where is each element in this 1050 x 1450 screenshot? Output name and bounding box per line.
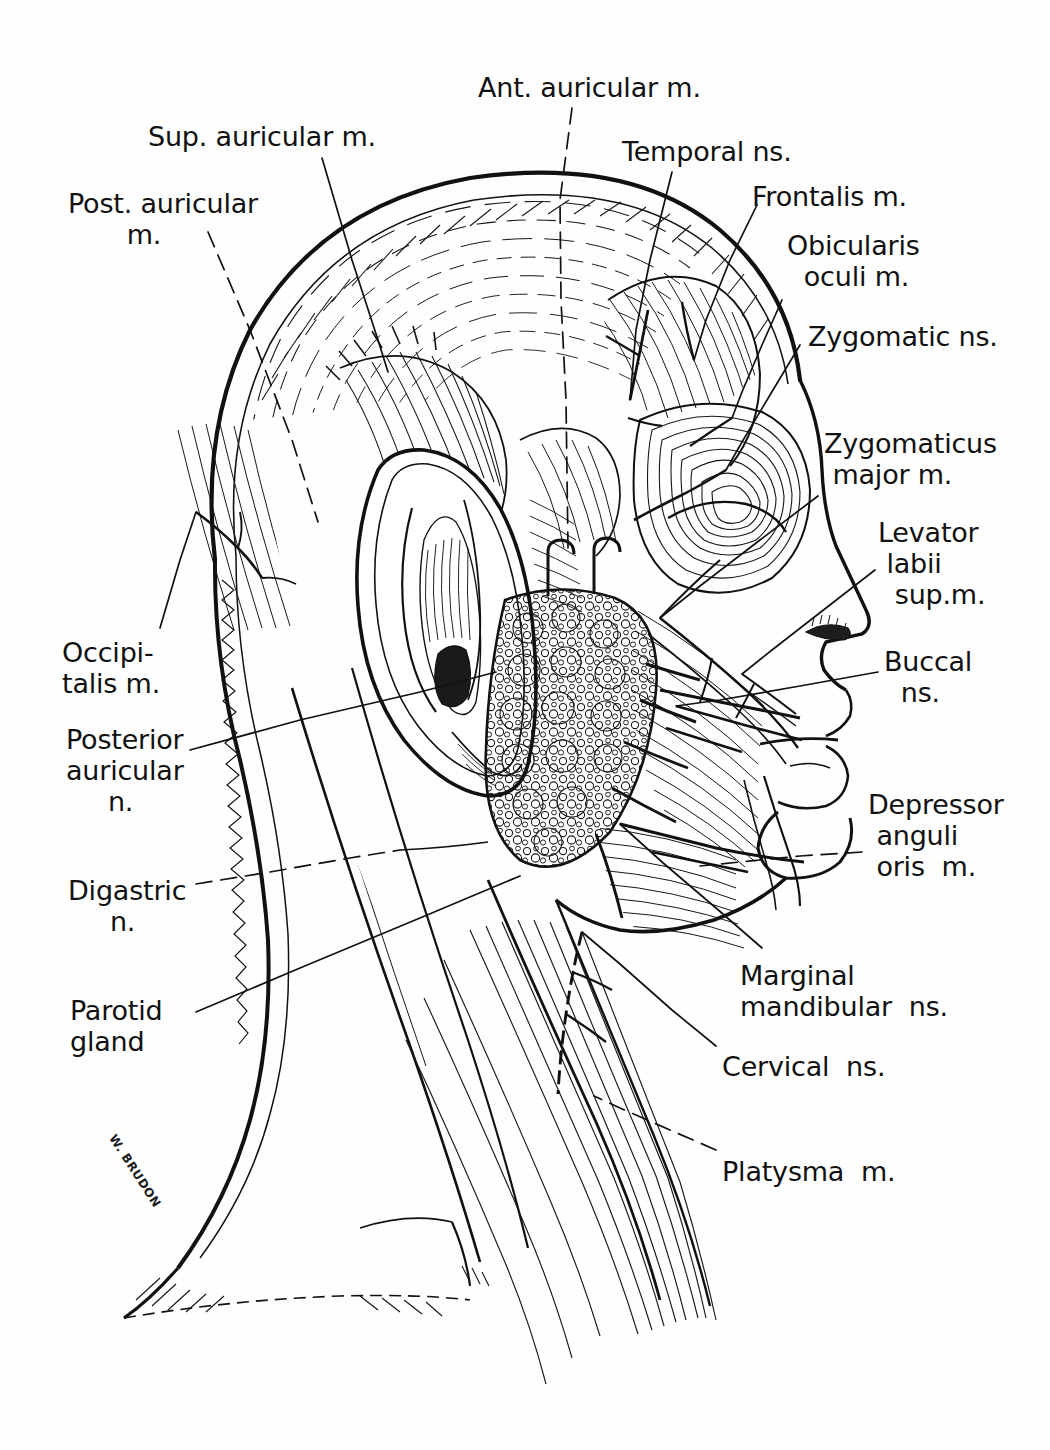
leader-occipitalis-m	[160, 512, 196, 628]
label-cervical-ns: Cervical ns.	[722, 1051, 885, 1082]
leader-buccal-ns	[676, 672, 878, 706]
label-zygomatic-ns: Zygomatic ns.	[808, 321, 998, 352]
leader-levator-labii-sup-m	[742, 570, 875, 674]
label-digastric-n: Digastric n.	[68, 875, 186, 937]
label-temporal-ns: Temporal ns.	[622, 136, 792, 167]
leader-platysma-m	[594, 1096, 716, 1150]
label-depressor-anguli-oris-m: Depressor anguli oris m.	[868, 789, 1004, 882]
leader-obicularis-oculi-m	[732, 300, 782, 418]
label-sup-auricular-m: Sup. auricular m.	[148, 121, 376, 152]
label-obicularis-oculi-m: Obicularis oculi m.	[787, 230, 920, 292]
label-levator-labii-sup-m: Levator labii sup.m.	[878, 517, 985, 610]
leader-cervical-ns	[582, 932, 716, 1046]
label-post-auricular-m: Post. auricular m.	[68, 188, 258, 250]
label-marginal-mandibular-ns: Marginal mandibular ns.	[740, 960, 948, 1022]
label-parotid-gland: Parotid gland	[70, 995, 162, 1057]
label-buccal-ns: Buccal ns.	[884, 646, 972, 708]
label-platysma-m: Platysma m.	[722, 1156, 895, 1187]
leader-post-auricular-m	[208, 232, 318, 522]
occipitalis-muscle	[178, 424, 302, 1268]
leader-zygomaticus-major-m	[660, 496, 818, 618]
label-occipitalis-m: Occipi- talis m.	[62, 637, 160, 699]
label-ant-auricular-m: Ant. auricular m.	[478, 72, 701, 103]
leader-zygomatic-ns	[726, 345, 800, 470]
leader-frontalis-m	[694, 205, 757, 360]
label-posterior-auricular-n: Posterior auricular n.	[66, 724, 184, 817]
label-frontalis-m: Frontalis m.	[752, 181, 907, 212]
label-zygomaticus-major-m: Zygomaticus major m.	[824, 428, 997, 490]
leader-digastric-n	[196, 850, 400, 884]
platysma-muscle	[406, 880, 716, 1384]
orbicularis-oculi	[634, 404, 810, 618]
frontalis-muscle	[596, 277, 764, 466]
cheek-muscles	[632, 610, 802, 880]
